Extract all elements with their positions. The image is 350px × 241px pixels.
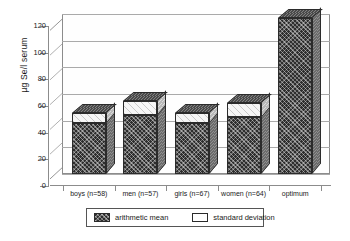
x-axis-tick [269, 186, 270, 191]
bar-segment-arithmetic-mean [175, 123, 209, 174]
y-tick-label-60: 60 [20, 102, 46, 109]
bar-right-face-mean [261, 106, 270, 174]
x-axis-label: women (n=64) [217, 190, 271, 198]
legend-item-arithmetic-mean: arithmetic mean [94, 213, 168, 222]
legend-swatch-standard-deviation-icon [192, 213, 208, 222]
bar-series-layer [50, 14, 330, 186]
x-axis-tick [166, 186, 167, 191]
y-tick-label-80: 80 [20, 75, 46, 82]
bar-segment-standard-deviation [227, 103, 261, 116]
legend-label-arithmetic-mean: arithmetic mean [115, 213, 168, 222]
y-tick-label-40: 40 [20, 129, 46, 136]
bar-boys [72, 113, 106, 174]
bar-girls [175, 113, 209, 174]
bar-segment-arithmetic-mean [278, 18, 312, 174]
legend-swatch-arithmetic-mean-icon [94, 213, 110, 222]
x-axis-label: men (n=57) [113, 190, 167, 198]
x-axis-label: girls (n=67) [165, 190, 219, 198]
bar-men [123, 101, 157, 174]
chart-legend: arithmetic mean standard deviation [86, 208, 264, 227]
y-tick-label-120: 120 [20, 22, 46, 29]
x-axis-label: optimum [268, 190, 322, 198]
legend-item-standard-deviation: standard deviation [192, 213, 274, 222]
y-tick-label-100: 100 [20, 49, 46, 56]
bar-right-face-mean [157, 105, 166, 174]
bar-segment-arithmetic-mean [227, 117, 261, 174]
bar-segment-standard-deviation [72, 113, 106, 124]
x-axis-tick [115, 186, 116, 191]
y-axis-title: µg Se/l serum [19, 0, 29, 135]
x-axis-label: boys (n=58) [62, 190, 116, 198]
x-axis-tick [63, 186, 64, 191]
bar-optimum [278, 18, 312, 174]
bar-segment-arithmetic-mean [123, 115, 157, 174]
x-axis-tick [218, 186, 219, 191]
x-axis-line [50, 185, 331, 186]
bar-segment-standard-deviation [175, 113, 209, 124]
y-tick-label-0: 0 [20, 182, 46, 189]
bar-segment-standard-deviation [123, 101, 157, 116]
bar-women [227, 103, 261, 174]
legend-label-standard-deviation: standard deviation [213, 213, 274, 222]
bar-segment-arithmetic-mean [72, 123, 106, 174]
y-tick-label-20: 20 [20, 155, 46, 162]
x-axis-tick-end [321, 186, 322, 191]
bar-right-face [312, 7, 321, 174]
bar-right-face-mean [106, 113, 115, 174]
selenium-serum-bar-chart: µg Se/l serum 120 100 80 60 40 20 0 [0, 0, 350, 241]
